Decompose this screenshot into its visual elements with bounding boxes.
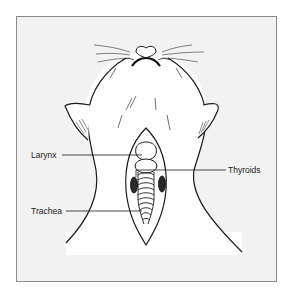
larynx [136, 142, 157, 160]
label-trachea: Trachea [31, 207, 62, 216]
label-larynx: Larynx [31, 151, 57, 160]
body-bottom-fill [66, 232, 242, 255]
thyroid-left [131, 177, 138, 193]
cricoid-ring [135, 159, 157, 173]
left-ear [65, 103, 90, 140]
label-thyroids: Thyroids [228, 166, 261, 175]
cat-neck-diagram [0, 0, 292, 297]
thyroid-right [159, 176, 166, 192]
